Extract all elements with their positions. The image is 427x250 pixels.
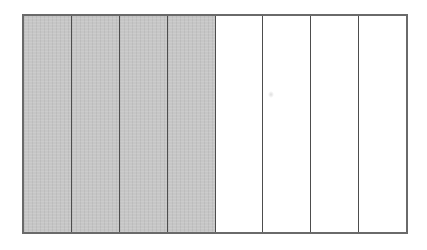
shaded-segment: [168, 16, 216, 232]
fraction-bar: [22, 14, 408, 234]
shaded-segment: [72, 16, 120, 232]
shaded-segment: [24, 16, 72, 232]
unshaded-segment: [311, 16, 359, 232]
shaded-segment: [120, 16, 168, 232]
unshaded-segment: [359, 16, 406, 232]
unshaded-segment: [216, 16, 264, 232]
diagram-canvas: [0, 0, 427, 250]
unshaded-segment: [263, 16, 311, 232]
